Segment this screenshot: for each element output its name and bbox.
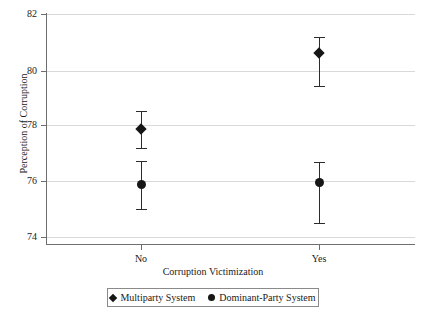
y-tick-mark-78 [41,125,47,126]
gridline-78 [47,125,415,126]
errorbar-cap-upper [314,37,325,38]
y-axis-line [46,13,47,245]
x-axis-line [46,244,415,245]
legend-item-multiparty-system: Multiparty System [110,292,195,303]
errorbar-cap-upper [136,111,147,112]
gridline-74 [47,237,415,238]
y-tick-mark-74 [41,237,47,238]
x-tick-mark-no [141,245,142,250]
corruption-perception-chart: 82 80 78 76 74 No Yes Corruption Victimi… [0,0,426,319]
circle-marker-icon [208,294,215,301]
gridline-80 [47,71,415,72]
errorbar-cap-lower [314,86,325,87]
circle-marker-icon [137,180,146,189]
diamond-marker-icon [109,293,117,301]
errorbar-cap-upper [314,162,325,163]
x-tick-label-yes: Yes [289,253,349,264]
x-axis-title: Corruption Victimization [0,266,426,277]
gridline-82 [47,14,415,15]
diamond-marker-icon [313,47,324,58]
y-tick-mark-80 [41,71,47,72]
errorbar-cap-lower [314,223,325,224]
x-tick-label-no: No [111,253,171,264]
errorbar-cap-upper [136,161,147,162]
gridline-76 [47,181,415,182]
legend-label-dominant-party-system: Dominant-Party System [219,292,315,303]
y-tick-label-74: 74 [11,232,37,242]
y-tick-mark-82 [41,14,47,15]
y-axis-title: Perception of Corruption [18,49,29,199]
y-tick-mark-76 [41,181,47,182]
y-tick-label-82: 82 [11,9,37,19]
errorbar-line [319,37,320,86]
errorbar-cap-lower [136,148,147,149]
legend: Multiparty System Dominant-Party System [107,288,319,307]
legend-label-multiparty-system: Multiparty System [120,292,195,303]
legend-item-dominant-party-system: Dominant-Party System [208,292,315,303]
errorbar-cap-lower [136,209,147,210]
circle-marker-icon [315,178,324,187]
x-tick-mark-yes [319,245,320,250]
errorbar-line [319,162,320,223]
